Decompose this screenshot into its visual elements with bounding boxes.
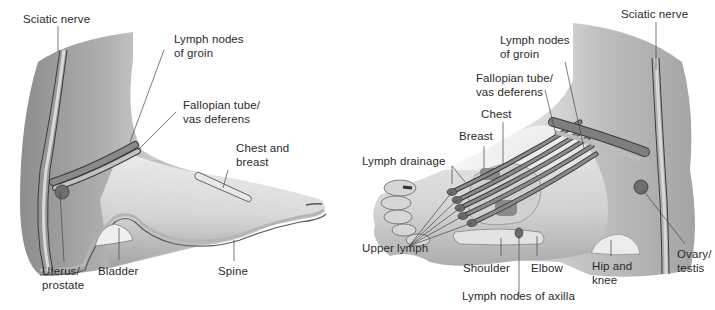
label-line: Lymph nodes — [174, 33, 244, 47]
label-left-fallopian-tube: Fallopian tube/ vas deferens — [183, 99, 260, 126]
label-line: testis — [677, 262, 711, 276]
label-line: breast — [236, 156, 289, 170]
label-right-elbow: Elbow — [531, 262, 563, 276]
label-left-uterus-prostate: Uterus/ prostate — [42, 265, 84, 292]
label-line: vas deferens — [183, 113, 260, 127]
right-shoulder-zone — [453, 229, 544, 245]
label-line: Ovary/ — [677, 248, 711, 262]
label-right-hip-knee: Hip and knee — [592, 260, 632, 287]
label-right-sciatic-nerve: Sciatic nerve — [621, 8, 688, 22]
label-line: Fallopian tube/ — [476, 72, 553, 86]
label-line: prostate — [42, 279, 84, 293]
label-line: Hip and — [592, 260, 632, 274]
label-left-lymph-nodes-groin: Lymph nodes of groin — [174, 33, 244, 60]
right-ovary-zone — [634, 180, 648, 194]
label-line: knee — [592, 274, 632, 288]
label-left-bladder: Bladder — [98, 265, 138, 279]
label-right-chest: Chest — [481, 108, 512, 122]
label-line: vas deferens — [476, 86, 553, 100]
label-right-lymph-drainage: Lymph drainage — [362, 155, 445, 169]
label-left-spine: Spine — [218, 265, 248, 279]
left-uterus-zone — [55, 185, 69, 199]
label-right-shoulder: Shoulder — [463, 262, 510, 276]
label-line: of groin — [174, 47, 244, 61]
label-line: Fallopian tube/ — [183, 99, 260, 113]
label-right-ovary-testis: Ovary/ testis — [677, 248, 711, 275]
label-line: Uterus/ — [42, 265, 84, 279]
label-right-fallopian-tube: Fallopian tube/ vas deferens — [476, 72, 553, 99]
label-line: Lymph nodes — [500, 34, 570, 48]
label-right-breast: Breast — [459, 130, 493, 144]
label-right-lymph-nodes-groin: Lymph nodes of groin — [500, 34, 570, 61]
label-line: Chest and — [236, 142, 289, 156]
label-right-lymph-nodes-axilla: Lymph nodes of axilla — [462, 290, 575, 304]
label-right-upper-lymph: Upper lymph — [362, 242, 428, 256]
reflexology-diagram: Sciatic nerve Lymph nodes of groin Fallo… — [0, 0, 715, 310]
label-left-chest-breast: Chest and breast — [236, 142, 289, 169]
label-line: of groin — [500, 48, 570, 62]
label-left-sciatic-nerve: Sciatic nerve — [23, 13, 90, 27]
left-forefoot-shape — [100, 150, 325, 268]
